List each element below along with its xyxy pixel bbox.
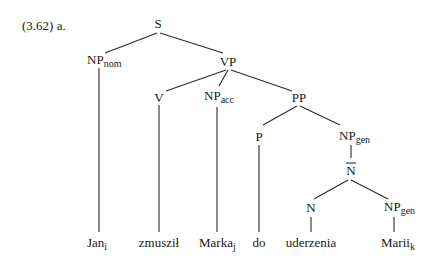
example-label: (3.62) a. [22,18,66,33]
edge-Nbar-NPgen2 [351,180,388,199]
node-PP: PP [292,90,306,105]
leaf-jan: Jani [87,235,107,252]
node-NP-acc: NPacc [204,88,235,105]
node-NP-gen: NPgen [339,128,370,145]
edge-VP-PP [231,70,292,91]
edge-S-NPnom [105,33,157,53]
tree-leaves: Jani zmusził Markaj do uderzenia Mariik [87,235,415,252]
node-S: S [154,16,161,31]
node-V: V [154,90,164,105]
node-N: N [306,200,316,215]
syntax-tree: (3.62) a. S NPnom VP V NPacc PP P NPgen … [0,0,438,268]
node-N-bar: N [346,163,356,178]
node-NP-gen-2: NPgen [384,199,415,216]
edge-Nbar-N [314,180,348,199]
svg-text:N: N [346,163,356,178]
edge-S-VP [160,33,223,53]
leaf-marka: Markaj [199,235,236,252]
edge-PP-NPgen [300,106,340,125]
node-P: P [255,129,262,144]
leaf-uderzenia: uderzenia [286,235,337,250]
node-VP: VP [220,54,237,69]
tree-nodes: S NPnom VP V NPacc PP P NPgen N N NPgen [87,16,415,216]
node-NP-nom: NPnom [87,52,122,69]
edge-PP-P [263,106,297,125]
leaf-marii: Mariik [381,235,415,252]
leaf-do: do [253,235,266,250]
leaf-zmuszil: zmusził [139,235,180,250]
